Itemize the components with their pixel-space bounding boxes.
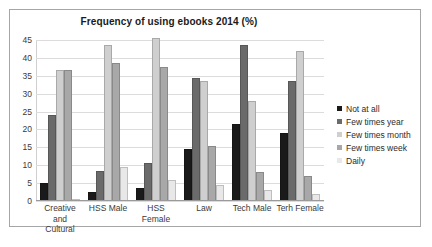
bar: [216, 185, 224, 201]
chart-legend: Not at allFew times yearFew times monthF…: [337, 102, 432, 167]
legend-item-label: Few times year: [346, 117, 404, 127]
x-axis-category-label: Law: [180, 203, 228, 235]
y-axis-tick-label: 15: [23, 142, 32, 152]
y-axis-tick-label: 0: [27, 196, 32, 206]
y-axis-tick-label: 20: [23, 124, 32, 134]
legend-item[interactable]: Not at all: [337, 102, 432, 115]
bar: [280, 133, 288, 201]
y-axis-tick-label: 5: [27, 178, 32, 188]
plot-area: 051015202530354045: [36, 40, 324, 201]
bar-group: [180, 40, 228, 201]
x-axis-category-label: HSS Female: [132, 203, 180, 235]
bar: [40, 183, 48, 201]
y-axis-tick-label: 25: [23, 107, 32, 117]
bar-group: [228, 40, 276, 201]
legend-item[interactable]: Few times week: [337, 141, 432, 154]
bar-group: [84, 40, 132, 201]
legend-swatch-icon: [337, 158, 342, 163]
bar: [168, 180, 176, 201]
y-axis-tick-label: 40: [23, 53, 32, 63]
chart-title: Frequency of using ebooks 2014 (%): [10, 16, 328, 27]
bar: [296, 51, 304, 201]
legend-item-label: Not at all: [346, 104, 380, 114]
bar: [144, 163, 152, 201]
bar: [104, 45, 112, 201]
x-axis-category-label: Terh Female: [276, 203, 324, 235]
x-axis-category-label: Creative andCultural: [36, 203, 84, 235]
bar: [200, 81, 208, 201]
bar: [256, 172, 264, 201]
bar-group: [132, 40, 180, 201]
x-axis-category-labels: Creative andCulturalHSS MaleHSS FemaleLa…: [36, 203, 324, 235]
bar: [160, 67, 168, 201]
legend-item[interactable]: Few times month: [337, 128, 432, 141]
bar: [304, 176, 312, 201]
bar-group: [276, 40, 324, 201]
bar: [248, 101, 256, 201]
y-axis-tick-label: 35: [23, 71, 32, 81]
bar: [96, 171, 104, 201]
legend-item[interactable]: Few times year: [337, 115, 432, 128]
y-axis-tick-label: 30: [23, 89, 32, 99]
legend-item-label: Daily: [346, 156, 365, 166]
bar: [112, 63, 120, 201]
legend-swatch-icon: [337, 145, 342, 150]
x-axis-category-label: Tech Male: [228, 203, 276, 235]
bar: [152, 38, 160, 201]
bar: [184, 149, 192, 201]
x-axis-line: [36, 200, 324, 201]
y-axis-tick-label: 10: [23, 160, 32, 170]
bar: [120, 167, 128, 201]
x-axis-category-label: HSS Male: [84, 203, 132, 235]
bar: [64, 70, 72, 201]
gridline: [36, 201, 324, 202]
legend-item-label: Few times week: [346, 143, 407, 153]
bar: [192, 78, 200, 201]
legend-item-label: Few times month: [346, 130, 411, 140]
legend-swatch-icon: [337, 119, 342, 124]
chart-container: Frequency of using ebooks 2014 (%) 05101…: [9, 9, 421, 227]
bars-layer: [36, 40, 324, 201]
bar-group: [36, 40, 84, 201]
legend-swatch-icon: [337, 106, 342, 111]
bar: [208, 146, 216, 201]
bar: [232, 124, 240, 201]
legend-item[interactable]: Daily: [337, 154, 432, 167]
bar: [56, 70, 64, 201]
bar: [288, 81, 296, 201]
bar: [48, 115, 56, 201]
bar: [240, 45, 248, 201]
y-axis-tick-label: 45: [23, 35, 32, 45]
legend-swatch-icon: [337, 132, 342, 137]
